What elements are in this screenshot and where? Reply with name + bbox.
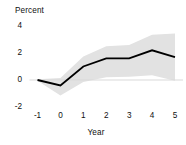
x-tick-label: 2	[97, 111, 115, 120]
y-tick-label: 2	[4, 48, 22, 57]
y-tick-label: 0	[4, 75, 22, 84]
chart-figure: Percent Year 420-2 -1012345	[0, 0, 186, 145]
y-tick-label: 4	[4, 21, 22, 30]
y-axis-title: Percent	[15, 6, 44, 15]
x-tick-label: 0	[51, 111, 69, 120]
x-tick-label: 3	[120, 111, 138, 120]
x-axis-title: Year	[0, 128, 186, 137]
plot-area	[0, 0, 186, 145]
x-tick-label: 4	[143, 111, 161, 120]
y-tick-label: -2	[4, 102, 22, 111]
x-tick-label: 1	[74, 111, 92, 120]
confidence-band	[38, 33, 175, 95]
x-tick-label: 5	[166, 111, 184, 120]
x-tick-label: -1	[29, 111, 47, 120]
